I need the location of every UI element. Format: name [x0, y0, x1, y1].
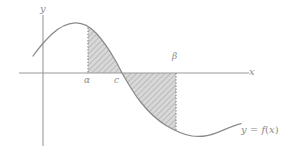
beta-tick-label: β: [172, 52, 177, 61]
curve-label-paren-close: ): [275, 124, 279, 135]
graph-canvas: [0, 0, 299, 165]
curve-equation-label: y = f(x): [241, 125, 279, 135]
y-axis-label: y: [40, 4, 46, 14]
function-graph-figure: y x α c β y = f(x): [0, 0, 299, 165]
c-tick-label: c: [114, 76, 119, 85]
curve-label-equals: =: [247, 124, 262, 135]
x-axis-label: x: [249, 67, 255, 77]
alpha-tick-label: α: [84, 76, 90, 85]
